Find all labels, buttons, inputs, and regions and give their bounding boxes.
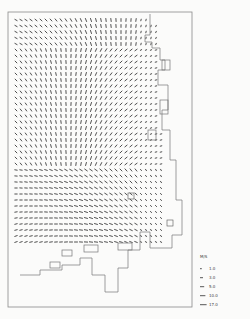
legend-label: 10.0 bbox=[209, 293, 218, 298]
station-marker bbox=[167, 220, 173, 226]
legend: M/S 1.03.05.010.017.0 bbox=[200, 254, 218, 307]
vector-arrows bbox=[15, 19, 162, 243]
legend-label: 1.0 bbox=[209, 266, 216, 271]
legend-label: 17.0 bbox=[209, 302, 218, 307]
vector-field-chart: M/S 1.03.05.010.017.0 bbox=[0, 0, 250, 319]
legend-title: M/S bbox=[200, 254, 208, 259]
station-markers bbox=[128, 193, 173, 226]
legend-label: 5.0 bbox=[209, 284, 216, 289]
legend-label: 3.0 bbox=[209, 275, 216, 280]
